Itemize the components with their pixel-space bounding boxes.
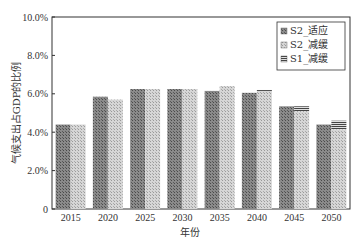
legend-swatch (281, 56, 287, 62)
x-tick-label: 2030 (172, 212, 192, 223)
bar-s2-mitigate (145, 89, 160, 209)
x-tick-label: 2015 (61, 212, 81, 223)
y-tick-label: 6.0% (27, 88, 48, 99)
bar-s2-adapt (316, 125, 331, 209)
y-axis-title: 气候支出占GDP的比例 (10, 62, 22, 165)
bar-s2-mitigate (257, 91, 272, 209)
bar-s2-adapt (56, 125, 71, 209)
x-tick-label: 2040 (247, 212, 267, 223)
bar-s2-adapt (279, 106, 294, 209)
bar-s2-adapt (205, 91, 220, 209)
legend-label: S2_适应 (290, 24, 328, 37)
x-tick-label: 2025 (135, 212, 155, 223)
x-axis-title: 年份 (180, 226, 200, 238)
x-tick-label: 2050 (321, 212, 341, 223)
bar-s1-mitigate (294, 106, 309, 111)
bar-chart: 02.0%4.0%6.0%8.0%10.0%201520202025203020… (0, 0, 353, 243)
bar-s2-mitigate (294, 111, 309, 209)
legend-label: S1_减缓 (290, 52, 328, 65)
y-tick-label: 8.0% (27, 50, 48, 61)
legend: S2_适应S2_减缓S1_减缓 (277, 22, 345, 70)
bar-s2-mitigate (108, 100, 123, 209)
x-tick-label: 2045 (284, 212, 304, 223)
bar-s2-mitigate (71, 125, 86, 209)
y-tick-label: 2.0% (27, 165, 48, 176)
bar-s2-adapt (93, 97, 108, 209)
bar-s1-mitigate (331, 121, 346, 130)
y-tick-label: 4.0% (27, 127, 48, 138)
bar-s2-mitigate (220, 86, 235, 209)
x-tick-label: 2020 (98, 212, 118, 223)
legend-swatch (281, 42, 287, 48)
bar-s2-mitigate (182, 89, 197, 209)
bar-s2-adapt (130, 89, 145, 209)
legend-label: S2_减缓 (290, 38, 328, 51)
legend-swatch (281, 28, 287, 34)
bar-s2-adapt (167, 89, 182, 209)
y-tick-label: 0 (43, 204, 48, 215)
bar-s2-mitigate (331, 129, 346, 209)
y-tick-label: 10.0% (22, 12, 48, 23)
bar-s2-adapt (242, 93, 257, 209)
bar-s1-mitigate (257, 90, 272, 91)
x-tick-label: 2035 (210, 212, 230, 223)
